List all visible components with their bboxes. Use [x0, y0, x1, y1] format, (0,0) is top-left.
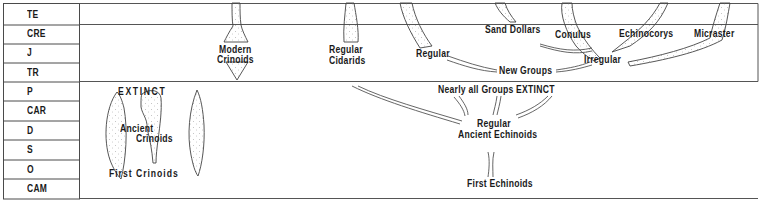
modern-crinoids-label-2: Crinoids	[217, 54, 254, 65]
period-s: S	[27, 144, 33, 155]
period-d: D	[27, 125, 33, 136]
period-car: CAR	[27, 105, 46, 116]
regular-label: Regular	[416, 48, 450, 59]
micraster-label: Micraster	[694, 28, 735, 39]
conulus-label: Conulus	[555, 29, 591, 40]
sand-dollars-label: Sand Dollars	[485, 24, 541, 35]
regular-ancient-label-2: Ancient Echinoids	[458, 129, 537, 140]
period-tr: TR	[27, 67, 39, 78]
period-cam: CAM	[27, 183, 47, 194]
modern-crinoids-shape	[224, 3, 248, 80]
regular-cidarids-label-2: Cidarids	[329, 55, 365, 66]
period-j: J	[27, 47, 32, 58]
period-p: P	[27, 86, 33, 97]
irregular-label: Irregular	[584, 54, 621, 65]
branch-lines	[352, 44, 592, 177]
echinocorys-label: Echinocorys	[619, 28, 673, 39]
period-cre: CRE	[27, 28, 46, 39]
period-o: O	[27, 164, 34, 175]
first-echinoids-label: First Echinoids	[467, 178, 533, 189]
nearly-all-extinct-label: Nearly all Groups EXTINCT	[438, 84, 555, 95]
crinoids-extinct-label: EXTINCT	[118, 86, 166, 97]
ancient-crinoids-label-2: Crinoids	[136, 133, 173, 144]
first-crinoids-label: First Crinoids	[109, 168, 179, 179]
new-groups-label: New Groups	[499, 65, 552, 76]
period-te: TE	[27, 9, 38, 20]
